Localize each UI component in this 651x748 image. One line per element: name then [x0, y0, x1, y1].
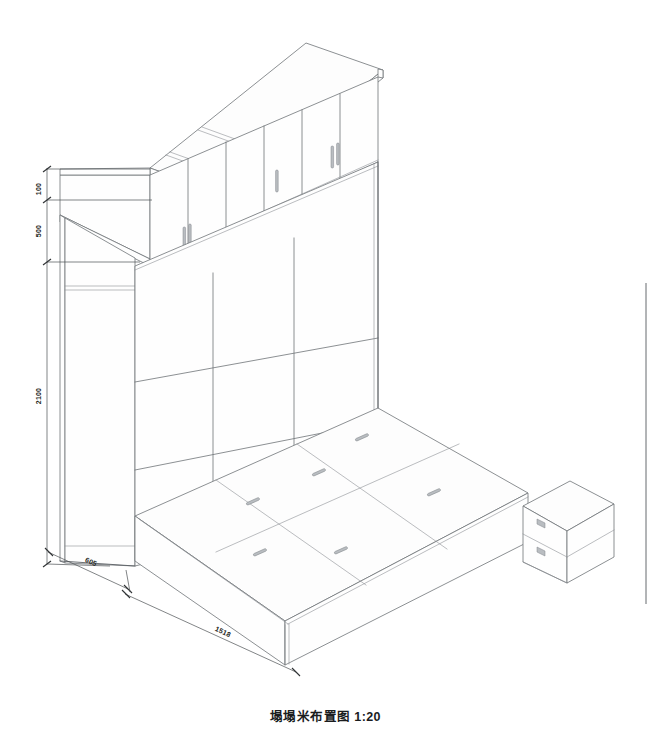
dimension-label-2100: 2100 [35, 388, 42, 404]
technical-drawing-canvas: 100 500 2100 605 1518 [0, 0, 651, 748]
dimension-label-1518: 1518 [214, 625, 232, 638]
drawing-caption: 塌塌米布置图 1:20 [0, 706, 651, 725]
isometric-drawing-svg: 100 500 2100 605 1518 [0, 0, 651, 748]
left-side-panel [60, 215, 135, 566]
dimension-label-100: 100 [35, 183, 42, 195]
dimension-label-500: 500 [35, 225, 42, 237]
nightstand [523, 481, 614, 583]
